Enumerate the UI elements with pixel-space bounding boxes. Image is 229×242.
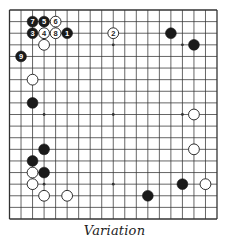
white-stone xyxy=(62,190,73,201)
move-number: 7 xyxy=(30,17,34,26)
black-stone: 1 xyxy=(62,28,73,39)
star-point xyxy=(43,183,46,186)
move-number: 9 xyxy=(19,52,23,61)
black-stone xyxy=(189,39,200,50)
black-stone xyxy=(39,167,50,178)
black-stone: 7 xyxy=(27,16,38,27)
white-stone: 8 xyxy=(50,28,61,39)
diagram-caption: Variation xyxy=(0,223,229,238)
white-stone xyxy=(189,109,200,120)
black-stone: 9 xyxy=(16,51,27,62)
move-number: 2 xyxy=(111,29,115,38)
black-stone xyxy=(142,190,153,201)
white-stone xyxy=(27,167,38,178)
white-stone: 2 xyxy=(108,28,119,39)
star-point xyxy=(43,113,46,116)
white-stone: 4 xyxy=(39,28,50,39)
black-stone xyxy=(165,28,176,39)
black-stone xyxy=(27,97,38,108)
move-number: 6 xyxy=(54,17,58,26)
black-stone xyxy=(177,179,188,190)
star-point xyxy=(112,43,115,46)
white-stone xyxy=(27,179,38,190)
black-stone: 5 xyxy=(39,16,50,27)
white-stone xyxy=(27,74,38,85)
white-stone xyxy=(39,190,50,201)
black-stone: 3 xyxy=(27,28,38,39)
star-point xyxy=(112,183,115,186)
star-point xyxy=(181,113,184,116)
star-point xyxy=(181,43,184,46)
white-stone xyxy=(200,179,211,190)
go-board: 756348129 xyxy=(0,0,229,222)
star-point xyxy=(112,113,115,116)
white-stone: 6 xyxy=(50,16,61,27)
black-stone xyxy=(39,144,50,155)
move-number: 3 xyxy=(30,29,34,38)
white-stone xyxy=(39,39,50,50)
black-stone xyxy=(27,156,38,167)
move-number: 1 xyxy=(65,29,69,38)
move-number: 8 xyxy=(54,29,58,38)
move-number: 5 xyxy=(42,17,46,26)
white-stone xyxy=(189,144,200,155)
